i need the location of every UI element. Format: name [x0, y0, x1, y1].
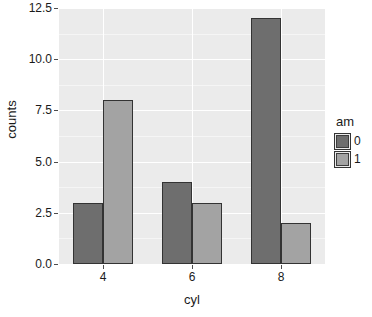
- legend-swatch-fill: [336, 153, 349, 166]
- y-axis-tick-label: 12.5: [14, 2, 52, 14]
- x-axis-tick-mark: [281, 265, 282, 269]
- y-axis-tick-mark: [54, 59, 58, 60]
- y-axis-tick-mark: [54, 162, 58, 163]
- bar: [103, 100, 133, 264]
- y-axis-tick-mark: [54, 264, 58, 265]
- legend-swatch-fill: [336, 135, 349, 148]
- legend-title: am: [336, 115, 372, 129]
- x-axis-tick-mark: [192, 265, 193, 269]
- x-axis-tick-mark: [103, 265, 104, 269]
- bar: [192, 203, 222, 264]
- y-axis-tick-label: 0.0: [14, 258, 52, 270]
- y-axis-tick-labels: 0.02.55.07.510.012.5: [14, 0, 52, 317]
- y-axis-tick-mark: [54, 8, 58, 9]
- bar: [73, 203, 103, 264]
- legend-item: 1: [334, 150, 372, 168]
- legend-label: 1: [354, 153, 361, 165]
- y-axis-tick-mark: [54, 110, 58, 111]
- legend-key-swatch: [334, 151, 351, 168]
- legend: am 01: [334, 115, 372, 168]
- bar-chart: counts 0.02.55.07.510.012.5 cyl am 01 46…: [0, 0, 372, 317]
- legend-label: 0: [354, 135, 361, 147]
- y-axis-tick-label: 7.5: [14, 104, 52, 116]
- legend-key-swatch: [334, 133, 351, 150]
- bar: [281, 223, 311, 264]
- legend-items: 01: [334, 132, 372, 168]
- bar: [162, 182, 192, 264]
- y-axis-tick-mark: [54, 213, 58, 214]
- legend-item: 0: [334, 132, 372, 150]
- y-axis-tick-label: 5.0: [14, 156, 52, 168]
- x-axis-tick-label: 4: [83, 271, 123, 283]
- x-axis-title: cyl: [59, 292, 325, 307]
- y-axis-tick-label: 10.0: [14, 53, 52, 65]
- x-axis-tick-label: 6: [172, 271, 212, 283]
- plot-panel: [59, 8, 325, 264]
- bar: [251, 18, 281, 264]
- y-axis-tick-label: 2.5: [14, 207, 52, 219]
- x-axis-tick-label: 8: [261, 271, 301, 283]
